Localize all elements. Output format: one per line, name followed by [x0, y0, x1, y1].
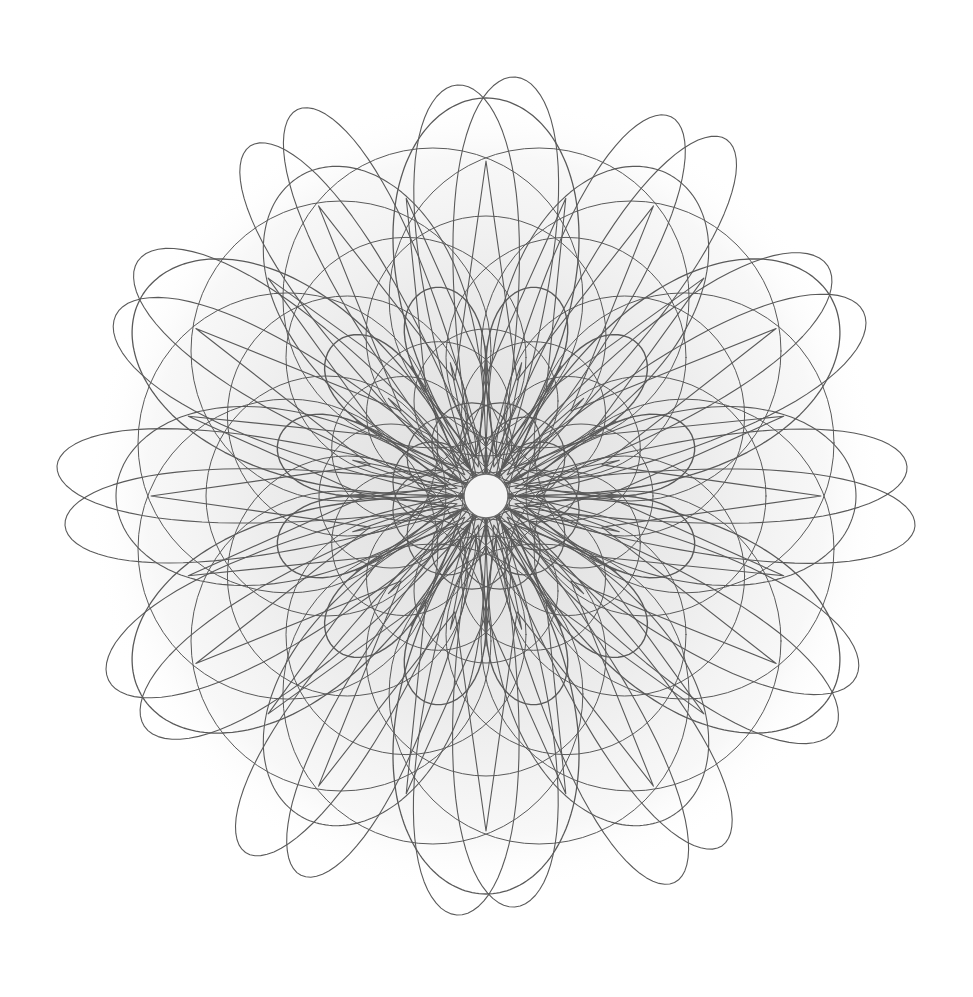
center-hole [464, 474, 508, 518]
spirograph-artwork [0, 0, 973, 997]
